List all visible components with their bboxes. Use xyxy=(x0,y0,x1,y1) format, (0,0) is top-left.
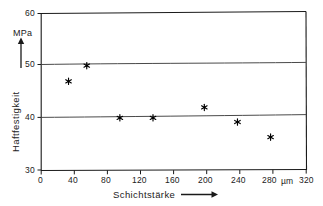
y-tick-label-60: 60 xyxy=(25,9,35,18)
x-tick-label-40: 40 xyxy=(68,176,78,185)
x-tick-label-200: 200 xyxy=(198,176,213,185)
y-tick-marks xyxy=(38,14,42,171)
x-axis-unit-label: µm xyxy=(281,176,293,186)
y-axis-unit-label: MPa xyxy=(13,28,32,38)
y-axis-arrow-icon xyxy=(18,38,24,69)
x-axis-title: Schichtstärke xyxy=(113,189,175,200)
plot-frame xyxy=(41,12,307,171)
gridline-40 xyxy=(41,115,306,118)
gridline-group xyxy=(41,62,306,117)
x-tick-label-160: 160 xyxy=(165,176,180,185)
data-point-marker xyxy=(66,78,72,84)
y-tick-label-30: 30 xyxy=(25,166,35,175)
data-point-marker xyxy=(268,134,274,140)
x-axis-arrow-icon xyxy=(181,191,218,197)
gridline-50 xyxy=(41,62,306,64)
x-tick-label-120: 120 xyxy=(132,176,147,185)
y-tick-label-40: 40 xyxy=(25,113,35,122)
data-point-marker xyxy=(150,115,156,121)
data-point-marker xyxy=(84,62,90,68)
data-point-group xyxy=(66,62,274,140)
chart-figure: 60 50 40 30 MPa Haftfestigkeit 0 40 80 1… xyxy=(0,0,323,206)
x-tick-label-0: 0 xyxy=(38,176,43,185)
y-tick-label-50: 50 xyxy=(25,60,35,69)
data-point-marker xyxy=(117,115,123,121)
data-point-marker xyxy=(202,104,208,110)
x-tick-label-80: 80 xyxy=(101,176,111,185)
data-point-marker xyxy=(235,119,241,125)
x-tick-label-240: 240 xyxy=(231,176,246,185)
y-axis-title: Haftfestigkeit xyxy=(10,91,21,152)
x-tick-label-280: 280 xyxy=(262,176,277,185)
x-tick-label-320: 320 xyxy=(299,176,314,185)
